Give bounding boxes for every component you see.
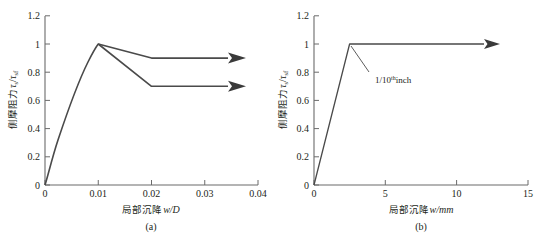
annotation-b-main: 1/10	[375, 75, 392, 85]
y-tick-label-b-4: 0.8	[297, 67, 310, 78]
x-axis-title-a-cjk: 局部沉降	[122, 204, 162, 215]
y-axis-title-b: 侧摩阻力τs/τsf	[277, 70, 289, 129]
curve-a-lower-branch	[98, 44, 228, 86]
x-tick-label-b-2: 10	[452, 188, 462, 199]
x-axis-title-b: 局部沉降w/mm	[389, 204, 454, 215]
x-axis-title-b-cjk: 局部沉降	[389, 204, 429, 215]
chart-a-svg: 0 0.2 0.4 0.6 0.8 1 1.2 0 0.01 0.02 0.03…	[0, 0, 274, 240]
x-axis-title-a: 局部沉降w/D	[122, 204, 180, 215]
y-axis-title-a-cjk: 侧摩阻力	[7, 89, 18, 129]
panel-caption-a: (a)	[145, 221, 156, 233]
y-tick-label-b-2: 0.4	[297, 123, 310, 134]
x-tick-label-b-0: 0	[312, 188, 317, 199]
arrowhead-b	[484, 39, 500, 49]
x-tick-label-a-4: 0.04	[249, 188, 267, 199]
x-tick-label-b-3: 15	[523, 188, 533, 199]
x-axis-title-a-sym: w/D	[163, 204, 180, 215]
y-axis-title-a: 侧摩阻力τs/τsf	[7, 70, 19, 129]
y-axis-title-b-cjk: 侧摩阻力	[277, 89, 288, 129]
x-tick-label-a-0: 0	[43, 188, 48, 199]
x-ticks-a	[45, 180, 258, 185]
y-tick-label-b-0: 0	[304, 180, 309, 191]
y-tick-label-a-4: 0.8	[28, 67, 41, 78]
annotation-b-tail: inch	[396, 75, 412, 85]
y-tick-label-a-3: 0.6	[28, 95, 41, 106]
y-axis-title-a-sub2: sf	[12, 70, 19, 76]
x-ticks-b	[314, 180, 528, 185]
svg-text:侧摩阻力τs/τsf: 侧摩阻力τs/τsf	[7, 70, 19, 129]
y-tick-label-b-5: 1	[304, 39, 309, 50]
svg-text:侧摩阻力τs/τsf: 侧摩阻力τs/τsf	[277, 70, 289, 129]
y-ticks-b	[314, 16, 319, 185]
y-tick-label-b-6: 1.2	[297, 10, 310, 21]
y-ticks-a	[45, 16, 50, 185]
panel-caption-b: (b)	[415, 221, 427, 233]
y-tick-label-b-1: 0.2	[297, 151, 310, 162]
x-tick-label-a-2: 0.02	[143, 188, 161, 199]
annotation-label-b: 1/10thinch	[375, 75, 412, 85]
y-tick-label-a-6: 1.2	[28, 10, 41, 21]
curve-b-elastic-plastic	[314, 44, 484, 185]
figure-two-panel-charts: 0 0.2 0.4 0.6 0.8 1 1.2 0 0.01 0.02 0.03…	[0, 0, 549, 240]
annotation-leader-line-b	[351, 46, 369, 72]
arrowhead-a-lower	[228, 81, 246, 92]
curve-a-upper-branch	[45, 44, 228, 185]
x-tick-label-a-1: 0.01	[90, 188, 108, 199]
y-axis-title-b-sub2: sf	[282, 70, 289, 76]
y-tick-label-a-2: 0.4	[28, 123, 41, 134]
y-tick-label-a-0: 0	[35, 180, 40, 191]
arrowhead-a-upper	[228, 53, 246, 64]
x-tick-label-a-3: 0.03	[196, 188, 214, 199]
x-tick-label-b-1: 5	[383, 188, 388, 199]
chart-panel-a: 0 0.2 0.4 0.6 0.8 1 1.2 0 0.01 0.02 0.03…	[0, 0, 274, 240]
y-tick-label-b-3: 0.6	[297, 95, 310, 106]
chart-b-svg: 0 0.2 0.4 0.6 0.8 1 1.2 0 5 10 15	[274, 0, 548, 240]
chart-panel-b: 0 0.2 0.4 0.6 0.8 1 1.2 0 5 10 15	[274, 0, 548, 240]
y-tick-label-a-5: 1	[35, 39, 40, 50]
y-tick-label-a-1: 0.2	[28, 151, 41, 162]
x-axis-title-b-sym: w/mm	[430, 204, 454, 215]
